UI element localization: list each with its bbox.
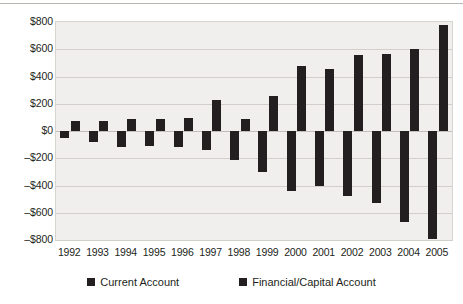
bar bbox=[145, 131, 154, 146]
bar bbox=[99, 121, 108, 131]
gridline bbox=[56, 158, 452, 159]
legend-swatch-icon bbox=[239, 278, 247, 286]
legend-swatch-icon bbox=[87, 278, 95, 286]
y-axis-tick-label: $0 bbox=[1, 125, 53, 136]
bar bbox=[354, 55, 363, 131]
bar bbox=[212, 100, 221, 131]
y-axis-tick-label: $600 bbox=[1, 43, 53, 54]
bar bbox=[343, 131, 352, 196]
chart-legend: Current AccountFinancial/Capital Account bbox=[0, 274, 463, 290]
bar bbox=[241, 119, 250, 131]
legend-label: Current Account bbox=[100, 277, 179, 288]
x-axis: 1992199319941995199619971998199920002001… bbox=[55, 246, 453, 262]
bar bbox=[184, 118, 193, 131]
bar bbox=[297, 66, 306, 131]
bar bbox=[258, 131, 267, 172]
bar bbox=[325, 69, 334, 131]
bar bbox=[400, 131, 409, 222]
bar bbox=[315, 131, 324, 186]
legend-label: Financial/Capital Account bbox=[252, 277, 376, 288]
y-axis-tick-label: –$800 bbox=[1, 234, 53, 245]
bar bbox=[174, 131, 183, 147]
bar bbox=[230, 131, 239, 160]
y-axis-tick-label: $400 bbox=[1, 71, 53, 82]
bar bbox=[269, 96, 278, 131]
bar bbox=[89, 131, 98, 142]
gridline bbox=[56, 186, 452, 187]
y-axis-tick-label: $800 bbox=[1, 16, 53, 27]
bar bbox=[71, 121, 80, 131]
gridline bbox=[56, 213, 452, 214]
bar bbox=[156, 119, 165, 131]
bar bbox=[439, 25, 448, 131]
bar bbox=[127, 119, 136, 131]
y-axis-tick-label: –$200 bbox=[1, 152, 53, 163]
bar bbox=[287, 131, 296, 191]
legend-item: Financial/Capital Account bbox=[239, 277, 376, 288]
bar bbox=[410, 49, 419, 131]
plot-area bbox=[55, 21, 453, 241]
gridline bbox=[56, 104, 452, 105]
top-divider-rule bbox=[0, 3, 463, 4]
y-axis-tick-label: –$400 bbox=[1, 180, 53, 191]
bar bbox=[382, 54, 391, 131]
gridline bbox=[56, 49, 452, 50]
bar bbox=[60, 131, 69, 138]
gridline bbox=[56, 240, 452, 241]
bar bbox=[202, 131, 211, 150]
y-axis-tick-label: $200 bbox=[1, 98, 53, 109]
zero-gridline bbox=[56, 131, 452, 132]
gridline bbox=[56, 77, 452, 78]
legend-item: Current Account bbox=[87, 277, 179, 288]
bar bbox=[428, 131, 437, 239]
x-axis-tick-label: 2005 bbox=[417, 246, 457, 258]
y-axis-tick-label: –$600 bbox=[1, 207, 53, 218]
bar bbox=[117, 131, 126, 147]
chart-figure: $800$600$400$200$0–$200–$400–$600–$800 1… bbox=[0, 0, 463, 304]
y-axis: $800$600$400$200$0–$200–$400–$600–$800 bbox=[0, 21, 53, 241]
bar bbox=[372, 131, 381, 203]
